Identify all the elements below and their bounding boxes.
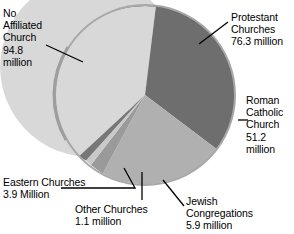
slice-label-no-affiliated-church: No Affiliated Church 94.8 million	[3, 7, 42, 68]
slice-label-roman-catholic: Roman Catholic Church 51.2 million	[246, 94, 283, 155]
slice-label-other-churches: Other Churches 1.1 million	[75, 203, 148, 227]
pie-chart-figure: No Affiliated Church 94.8 million Protes…	[0, 0, 294, 234]
slice-label-eastern-churches: Eastern Churches 3.9 Million	[3, 176, 85, 200]
slice-label-jewish-congregations: Jewish Congregations 5.9 million	[186, 195, 253, 232]
leader-line-jewish	[163, 180, 184, 206]
slice-label-protestant: Protestant Churches 76.3 million	[231, 11, 283, 48]
